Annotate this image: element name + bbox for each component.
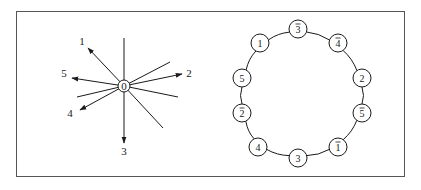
ring-diagram: 3425134251 — [233, 20, 371, 167]
ring-node: 2 — [353, 69, 371, 87]
arrow-label: 2 — [186, 67, 192, 79]
ring-edge — [246, 121, 254, 139]
ring-node-label: 4 — [336, 38, 341, 49]
ring-edge — [343, 120, 357, 139]
ring-node: 1 — [251, 34, 269, 52]
ring-node-label: 1 — [336, 142, 341, 153]
arrow-label: 3 — [121, 145, 127, 157]
ring-node: 3 — [289, 149, 307, 167]
ring-edge — [306, 32, 329, 40]
ring-node-label: 5 — [360, 108, 365, 119]
star-arrow-5 — [72, 78, 124, 86]
ring-edge — [267, 149, 290, 155]
ring-node-label: 3 — [296, 153, 301, 164]
star-diagram: 123450 — [61, 35, 192, 157]
ring-node: 4 — [329, 34, 347, 52]
ring-node-label: 2 — [240, 108, 245, 119]
ring-node-label: 2 — [360, 73, 365, 84]
ring-edge — [343, 50, 357, 70]
ring-node-label: 3 — [296, 24, 301, 35]
ring-node-label: 4 — [256, 142, 261, 153]
ring-node: 3 — [289, 20, 307, 38]
ring-node-label: 1 — [258, 38, 263, 49]
ring-node-label: 5 — [240, 73, 245, 84]
star-arrow-1 — [88, 48, 124, 86]
arrow-label: 4 — [67, 107, 73, 119]
ring-edge — [246, 51, 256, 70]
arrow-label: 1 — [79, 35, 85, 47]
star-arrow-4 — [80, 86, 124, 110]
arrow-label: 5 — [61, 67, 67, 79]
diagram-figure: 123450 3425134251 — [0, 0, 421, 190]
ring-node: 5 — [353, 104, 371, 122]
ring-node: 1 — [329, 138, 347, 156]
ring-edge — [307, 149, 330, 155]
ring-node: 4 — [249, 138, 267, 156]
ring-node: 2 — [233, 104, 251, 122]
star-line — [124, 62, 170, 86]
ring-edge — [241, 87, 242, 104]
center-node-label: 0 — [121, 80, 127, 92]
star-line — [77, 86, 124, 97]
ring-edge — [362, 87, 363, 104]
star-arrow-2 — [124, 74, 182, 86]
ring-edge — [268, 32, 289, 40]
figure-border — [17, 12, 405, 177]
ring-node: 5 — [233, 69, 251, 87]
